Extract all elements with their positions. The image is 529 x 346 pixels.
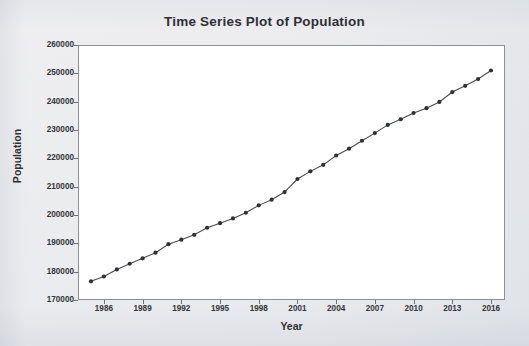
data-point bbox=[166, 242, 170, 246]
x-tick-mark bbox=[336, 300, 337, 304]
x-tick-label: 1989 bbox=[134, 304, 152, 313]
x-tick-label: 1995 bbox=[211, 304, 229, 313]
x-tick-mark bbox=[414, 300, 415, 304]
x-tick-label: 1986 bbox=[95, 304, 113, 313]
data-point bbox=[347, 147, 351, 151]
data-point bbox=[89, 279, 93, 283]
chart-title: Time Series Plot of Population bbox=[0, 14, 529, 29]
population-markers bbox=[89, 68, 493, 283]
population-line bbox=[91, 71, 491, 282]
data-point bbox=[373, 131, 377, 135]
data-point bbox=[321, 163, 325, 167]
x-tick-label: 1998 bbox=[250, 304, 268, 313]
data-point bbox=[128, 262, 132, 266]
data-point bbox=[308, 169, 312, 173]
x-tick-label: 1992 bbox=[172, 304, 190, 313]
data-point bbox=[179, 238, 183, 242]
x-tick-label: 2013 bbox=[443, 304, 461, 313]
data-point bbox=[489, 68, 493, 72]
y-axis-title: Population bbox=[11, 111, 23, 201]
data-point bbox=[141, 256, 145, 260]
data-point bbox=[282, 190, 286, 194]
data-point bbox=[476, 77, 480, 81]
x-axis-title: Year bbox=[78, 320, 505, 332]
data-point bbox=[244, 211, 248, 215]
x-tick-mark bbox=[181, 300, 182, 304]
y-tick-label: 250000 bbox=[47, 68, 74, 77]
y-tick-label: 170000 bbox=[47, 295, 74, 304]
data-point bbox=[463, 84, 467, 88]
data-point bbox=[424, 106, 428, 110]
x-tick-mark bbox=[104, 300, 105, 304]
data-point bbox=[102, 274, 106, 278]
x-tick-mark bbox=[297, 300, 298, 304]
y-tick-label: 240000 bbox=[47, 97, 74, 106]
data-point bbox=[231, 216, 235, 220]
x-tick-label: 2010 bbox=[404, 304, 422, 313]
data-point bbox=[115, 267, 119, 271]
data-point bbox=[437, 100, 441, 104]
data-point bbox=[360, 139, 364, 143]
data-point bbox=[218, 221, 222, 225]
data-point bbox=[192, 233, 196, 237]
x-tick-label: 2001 bbox=[288, 304, 306, 313]
y-tick-label: 190000 bbox=[47, 238, 74, 247]
y-tick-label: 200000 bbox=[47, 210, 74, 219]
x-tick-mark bbox=[452, 300, 453, 304]
x-tick-label: 2007 bbox=[366, 304, 384, 313]
y-tick-label: 230000 bbox=[47, 125, 74, 134]
data-point bbox=[205, 226, 209, 230]
y-tick-mark bbox=[74, 300, 78, 301]
data-point bbox=[411, 111, 415, 115]
data-point bbox=[257, 203, 261, 207]
data-point bbox=[153, 251, 157, 255]
data-point bbox=[399, 117, 403, 121]
x-tick-mark bbox=[491, 300, 492, 304]
series-layer bbox=[78, 45, 505, 300]
x-tick-mark bbox=[259, 300, 260, 304]
y-tick-label: 220000 bbox=[47, 153, 74, 162]
x-tick-mark bbox=[143, 300, 144, 304]
data-point bbox=[386, 123, 390, 127]
chart-figure: Time Series Plot of Population 170000180… bbox=[0, 0, 529, 346]
y-tick-label: 260000 bbox=[47, 40, 74, 49]
data-point bbox=[295, 177, 299, 181]
x-tick-mark bbox=[220, 300, 221, 304]
data-point bbox=[334, 153, 338, 157]
x-tick-mark bbox=[375, 300, 376, 304]
y-tick-label: 180000 bbox=[47, 267, 74, 276]
data-point bbox=[450, 90, 454, 94]
data-point bbox=[270, 198, 274, 202]
x-tick-label: 2004 bbox=[327, 304, 345, 313]
y-tick-label: 210000 bbox=[47, 182, 74, 191]
x-tick-label: 2016 bbox=[482, 304, 500, 313]
